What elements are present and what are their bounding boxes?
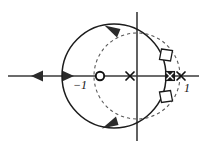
figure-canvas bbox=[0, 0, 199, 149]
axis-label-minus-one: −1 bbox=[73, 79, 87, 91]
square-marker-upper-marker bbox=[160, 49, 173, 61]
real-axis-arrow-left-icon bbox=[31, 71, 43, 82]
locus-arrow-bottom-icon bbox=[102, 117, 119, 129]
pole-boxed-cross-right-marker bbox=[166, 72, 175, 81]
zero-open-circle-marker bbox=[96, 72, 104, 80]
locus-arrow-top-icon bbox=[105, 26, 121, 38]
axis-label-one: 1 bbox=[184, 82, 190, 94]
square-marker-lower-marker bbox=[160, 91, 173, 103]
root-locus-figure: −1 1 bbox=[0, 0, 199, 149]
